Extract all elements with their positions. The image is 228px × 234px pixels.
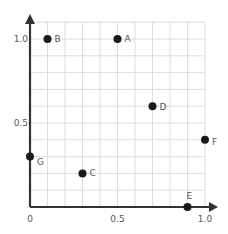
point-label: F [212,137,217,147]
data-point-d: D [149,102,167,112]
scatter-chart: 00.51.00.51.0 ABCDEFG [0,0,228,234]
point-label: B [55,34,61,44]
point-marker-icon [184,203,192,211]
x-axis-arrow-icon [209,202,218,212]
y-axis-arrow-icon [25,14,35,24]
point-label: C [90,168,96,178]
data-point-f: F [201,136,217,147]
point-marker-icon [44,35,52,43]
y-tick-label: 0.5 [14,118,28,128]
point-marker-icon [79,169,87,177]
point-label: A [125,34,132,44]
point-label: D [160,102,167,112]
tick-labels: 00.51.00.51.0 [14,34,213,224]
point-marker-icon [201,136,209,144]
x-tick-label: 0.5 [110,214,124,224]
point-label: G [37,157,44,167]
y-tick-label: 1.0 [14,34,29,44]
x-tick-label: 1.0 [198,214,213,224]
data-point-g: G [26,153,44,167]
point-marker-icon [149,102,157,110]
point-marker-icon [26,153,34,161]
point-label: E [187,191,193,201]
point-marker-icon [114,35,122,43]
grid-lines [30,22,205,207]
x-tick-label: 0 [27,214,33,224]
